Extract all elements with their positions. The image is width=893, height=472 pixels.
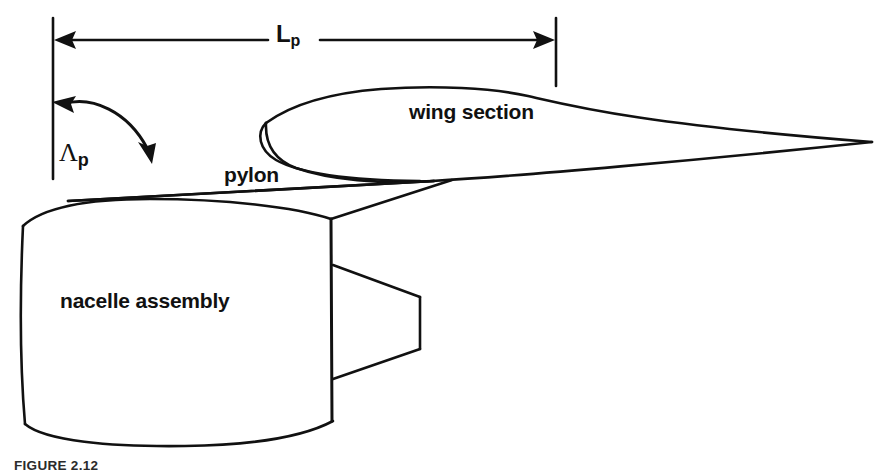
figure-caption: FIGURE 2.12	[14, 458, 98, 472]
wing-leading-edge-contour	[260, 123, 420, 181]
technical-diagram	[0, 0, 893, 472]
pylon-length-symbol-label: Lp	[276, 20, 300, 50]
dimension-annotation-group	[52, 18, 556, 179]
nacelle-aft-face	[331, 219, 332, 421]
nacelle-assembly-label: nacelle assembly	[60, 289, 230, 313]
exhaust-nozzle-upper-edge	[333, 265, 420, 297]
sweep-angle-symbol-label: Λp	[59, 138, 88, 171]
sweep-angle-arrowhead-upper	[52, 96, 76, 113]
pylon-length-symbol-base: L	[276, 20, 290, 47]
nacelle-assembly-shape	[21, 199, 420, 446]
sweep-angle-symbol-subscript: p	[78, 150, 89, 170]
wing-section-label: wing section	[409, 100, 534, 124]
wing-section-shape	[260, 87, 872, 182]
nacelle-top-curve	[23, 199, 331, 226]
wing-lower-surface	[266, 123, 872, 182]
exhaust-nozzle-lower-edge	[333, 349, 420, 379]
sweep-angle-symbol-base: Λ	[59, 138, 78, 167]
wing-upper-surface	[266, 87, 872, 142]
nacelle-bottom-curve	[25, 421, 333, 446]
pylon-label: pylon	[224, 163, 279, 187]
nacelle-forward-face	[21, 226, 25, 424]
figure-container: wing section pylon nacelle assembly Lp Λ…	[0, 0, 893, 472]
pylon-length-symbol-subscript: p	[290, 32, 300, 49]
